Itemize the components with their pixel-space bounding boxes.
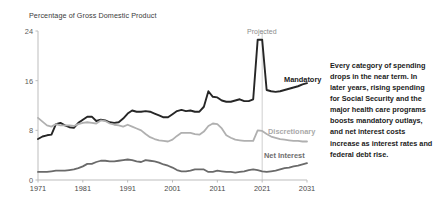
- x-tick-label: 1981: [66, 184, 100, 193]
- x-tick-label: 2011: [200, 184, 234, 193]
- x-tick-label: 1991: [111, 184, 145, 193]
- y-tick-label: 16: [17, 77, 33, 86]
- series-label-net-interest: Net Interest: [264, 151, 305, 160]
- series-label-discretionary: Discretionary: [268, 127, 315, 136]
- series-line-net-interest: [38, 160, 307, 173]
- y-tick-label: 24: [17, 27, 33, 36]
- x-tick-label: 1971: [21, 184, 55, 193]
- projected-label: Projected: [247, 28, 277, 35]
- series-label-mandatory: Mandatory: [284, 75, 321, 84]
- sidenote-text: Every category of spending drops in the …: [330, 60, 434, 160]
- series-line-discretionary: [38, 118, 307, 142]
- spending-projection-figure: Percentage of Gross Domestic Product 081…: [0, 0, 442, 209]
- y-tick-label: 8: [17, 126, 33, 135]
- x-tick-label: 2031: [290, 184, 324, 193]
- x-tick-label: 2021: [245, 184, 279, 193]
- x-tick-label: 2001: [156, 184, 190, 193]
